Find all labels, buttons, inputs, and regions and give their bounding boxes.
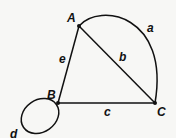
node-b [56,101,60,105]
node-label-c: C [157,106,166,118]
node-a [77,24,81,28]
node-label-a: A [67,12,76,24]
node-label-b: B [47,89,56,101]
edge-label-e: e [59,53,66,65]
edge-label-a: a [147,22,154,34]
edge-label-b: b [119,51,126,63]
edge-d-loop [14,91,65,138]
edge-label-d: d [10,128,17,138]
edge-label-c: c [104,106,111,118]
edge-b [79,26,155,103]
